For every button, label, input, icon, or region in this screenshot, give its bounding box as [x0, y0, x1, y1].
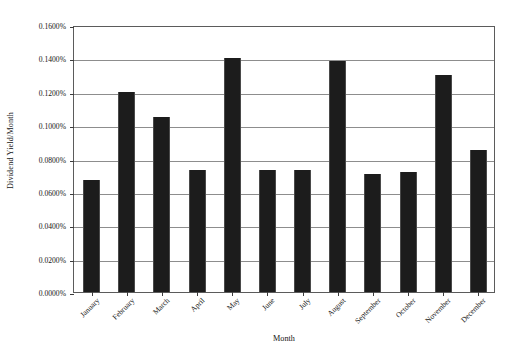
y-axis-tick-label: 0.1000%: [39, 122, 66, 131]
y-axis-tick-label: 0.0000%: [39, 289, 66, 298]
x-axis-tick-label: January: [78, 296, 101, 319]
y-axis-tick-labels: 0.1600%0.1400%0.1200%0.1000%0.0800%0.060…: [18, 0, 70, 320]
bars-layer: [74, 27, 494, 292]
y-axis-tick-label: 0.0800%: [39, 155, 66, 164]
y-axis-title-label: Dividend Yield/Month: [7, 111, 16, 188]
bar: [153, 117, 170, 292]
bar: [224, 58, 241, 292]
x-axis-tick-label: November: [424, 296, 453, 325]
bar: [259, 170, 276, 292]
y-axis-tick-label: 0.1200%: [39, 88, 66, 97]
x-axis-tick-label: October: [394, 296, 418, 320]
x-axis-tick-label: May: [225, 296, 241, 312]
plot-area: [73, 26, 495, 293]
bar: [118, 92, 135, 292]
x-axis-tick-label: September: [353, 296, 382, 325]
x-axis-tick-label: February: [110, 296, 136, 322]
bar: [470, 150, 487, 292]
bar: [189, 170, 206, 292]
bar: [435, 75, 452, 292]
x-axis-tick-label: August: [325, 296, 347, 318]
x-axis-tick-label: July: [297, 296, 312, 311]
x-axis-tick-label: April: [189, 296, 207, 314]
y-axis-tick-label: 0.1600%: [39, 22, 66, 31]
dividend-yield-bar-chart: Dividend Yield/Month 0.1600%0.1400%0.120…: [0, 0, 511, 359]
bar: [400, 172, 417, 292]
y-axis-tick-label: 0.0200%: [39, 255, 66, 264]
x-axis-tick-label: December: [459, 296, 487, 324]
bar: [364, 174, 381, 292]
y-axis-tick-label: 0.0600%: [39, 188, 66, 197]
scan-artifact: [96, 350, 168, 355]
y-axis-tick-label: 0.1400%: [39, 55, 66, 64]
x-axis-tick-label: June: [261, 296, 277, 312]
bar: [329, 61, 346, 292]
bar: [83, 180, 100, 292]
x-axis-title: Month: [73, 334, 495, 343]
y-axis-tick-label: 0.0400%: [39, 222, 66, 231]
bar: [294, 170, 311, 292]
x-axis-tick-label: March: [151, 296, 171, 316]
